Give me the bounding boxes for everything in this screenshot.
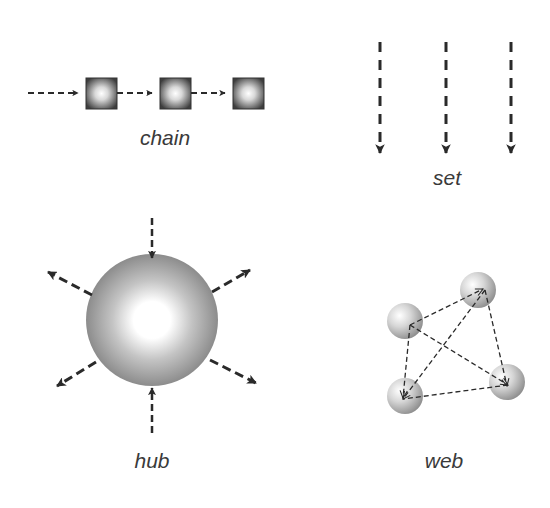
hub-sphere [86,254,218,386]
hub-arrow-out-lower-right [210,360,256,383]
web-diagram [387,272,525,414]
set-label: set [433,166,461,190]
web-node-2 [460,272,496,308]
hub-arrow-out-upper-right [212,270,250,292]
chain-node-2 [160,78,191,109]
chain-diagram [28,78,264,109]
set-diagram [380,42,511,153]
hub-arrow-out-lower-left [57,362,96,386]
diagram-canvas [0,0,550,508]
chain-label: chain [140,126,190,150]
hub-arrow-out-upper-left [48,272,92,295]
chain-node-1 [86,78,117,109]
web-edge-1-3 [410,325,508,385]
hub-label: hub [134,449,169,473]
hub-diagram [48,218,256,433]
chain-node-3 [233,78,264,109]
web-label: web [425,449,464,473]
web-node-3 [489,364,525,400]
